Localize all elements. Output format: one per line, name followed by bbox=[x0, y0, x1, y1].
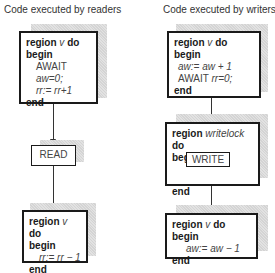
increment-line: aw:= aw + 1 bbox=[174, 61, 254, 73]
region-header: region v do bbox=[174, 37, 254, 49]
readers-entry-region: region v do begin AWAIT aw=0; rr:= rr+1 … bbox=[19, 31, 98, 104]
region-header: region v do bbox=[172, 219, 251, 231]
read-action-box: READ bbox=[31, 145, 76, 166]
begin-keyword: begin bbox=[26, 49, 91, 61]
end-keyword: end bbox=[172, 255, 251, 267]
region-header: region v do bbox=[29, 216, 81, 240]
readers-connector-2 bbox=[53, 166, 54, 204]
end-keyword: end bbox=[29, 264, 81, 273]
readers-connector-1 bbox=[53, 104, 54, 140]
decrement-line: rr:= rr − 1 bbox=[29, 252, 81, 264]
end-keyword: end bbox=[172, 186, 253, 198]
begin-keyword: begin bbox=[29, 240, 81, 252]
increment-line: rr:= rr+1 bbox=[26, 85, 91, 97]
end-keyword: end bbox=[26, 97, 91, 109]
region-header: region v do bbox=[26, 37, 91, 49]
readers-exit-region: region v do begin rr:= rr − 1 end bbox=[22, 210, 88, 263]
await-line: AWAIT rr=0; bbox=[174, 73, 254, 85]
begin-keyword: begin bbox=[174, 49, 254, 61]
writers-connector-2 bbox=[211, 186, 212, 207]
region-header: region writelock do bbox=[172, 128, 253, 152]
end-keyword: end bbox=[174, 85, 254, 97]
begin-keyword: begin bbox=[172, 231, 251, 243]
writers-exit-region: region v do begin aw:= aw − 1 end bbox=[165, 213, 258, 259]
writers-entry-region: region v do begin aw:= aw + 1 AWAIT rr=0… bbox=[167, 31, 261, 98]
await-line: AWAIT aw=0; bbox=[26, 61, 91, 85]
writers-title: Code executed by writers bbox=[163, 4, 275, 15]
write-action-box: WRITE bbox=[186, 152, 230, 167]
decrement-line: aw:= aw − 1 bbox=[172, 243, 251, 255]
readers-title: Code executed by readers bbox=[4, 4, 121, 15]
